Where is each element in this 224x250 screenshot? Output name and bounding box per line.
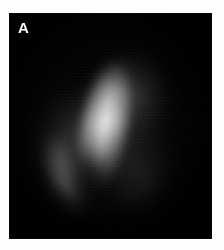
signal-region-hot-streak [71,58,137,196]
signal-region-hot-streak-core [89,74,121,171]
imaging-panel-a[interactable]: A [9,13,212,239]
panel-label-a: A [18,20,29,35]
panel-vignette [9,13,212,239]
signal-region-lower-left-lobe [23,132,116,235]
signal-region-cold-notch [57,137,117,223]
figure-root: A [0,0,224,250]
signal-region-crescent-arm [38,131,94,219]
signal-region-upper-right-lobe [93,43,183,150]
scan-noise-overlay [9,13,212,239]
signal-region-broad-halo [23,47,195,223]
signal-region-left-lobe [18,79,119,199]
signal-region-lower-right-lobe [100,128,182,233]
